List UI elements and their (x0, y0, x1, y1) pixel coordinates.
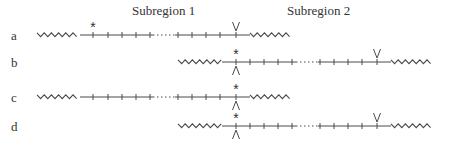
caret-marker (233, 130, 240, 139)
zigzag-left-b (178, 60, 221, 64)
zigzag-right-d (391, 124, 431, 128)
asterisk-marker: * (233, 110, 239, 126)
zigzag-left-d (178, 124, 221, 128)
asterisk-marker: * (90, 19, 96, 35)
zigzag-right-a (250, 33, 290, 37)
zigzag-left-c (37, 95, 77, 99)
caret-marker (233, 66, 240, 75)
asterisk-marker: * (233, 81, 239, 97)
asterisk-marker: * (233, 46, 239, 62)
v-marker (233, 22, 240, 31)
zigzag-right-c (250, 95, 290, 99)
sequence-diagram: **** (0, 0, 449, 147)
v-marker (374, 49, 381, 58)
zigzag-left-a (37, 33, 77, 37)
zigzag-right-b (391, 60, 431, 64)
caret-marker (233, 101, 240, 110)
v-marker (374, 113, 381, 122)
